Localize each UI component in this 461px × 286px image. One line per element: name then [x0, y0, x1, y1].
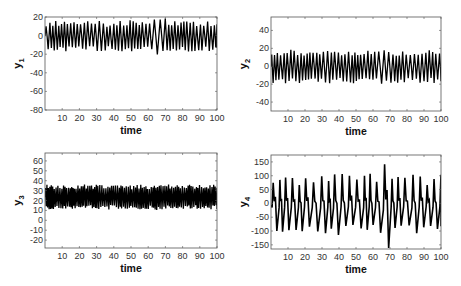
subplot-y2: 10203040506070809010040200-20-40timey2 — [237, 17, 449, 137]
series-line-y4 — [271, 164, 441, 248]
x-tick-label: 100 — [209, 113, 224, 123]
y-tick-label: 20 — [33, 196, 43, 206]
x-tick-label: 10 — [57, 113, 67, 123]
x-tick-label: 20 — [74, 251, 84, 261]
x-tick-label: 100 — [433, 252, 448, 262]
x-tick-label: 30 — [317, 252, 327, 262]
x-tick-label: 50 — [126, 113, 136, 123]
y-tick-label: -20 — [30, 235, 43, 245]
x-tick-label: 40 — [334, 252, 344, 262]
y-tick-label: -40 — [256, 97, 269, 107]
y-tick-label: 50 — [33, 166, 43, 176]
y-tick-label: -150 — [251, 240, 269, 250]
y-tick-label: -40 — [30, 68, 43, 78]
x-tick-label: 20 — [74, 113, 84, 123]
x-tick-label: 80 — [178, 113, 188, 123]
x-tick-label: 30 — [92, 113, 102, 123]
series-line-y2 — [271, 50, 441, 84]
y-tick-label: 20 — [259, 43, 269, 53]
x-tick-label: 30 — [92, 251, 102, 261]
y-axis-label: y4 — [237, 196, 252, 207]
x-tick-label: 80 — [402, 114, 412, 124]
x-tick-label: 50 — [351, 252, 361, 262]
x-tick-label: 60 — [143, 113, 153, 123]
x-tick-label: 20 — [300, 252, 310, 262]
y-tick-label: 10 — [33, 205, 43, 215]
x-tick-label: 90 — [419, 252, 429, 262]
y-tick-label: -10 — [30, 225, 43, 235]
y-axis-label: y3 — [11, 195, 26, 205]
x-axis-label: time — [120, 262, 142, 274]
y-tick-label: 0 — [264, 198, 269, 208]
y-tick-label: 40 — [33, 176, 43, 186]
x-tick-label: 100 — [209, 251, 224, 261]
x-axis-label: time — [120, 124, 142, 136]
y-tick-label: 150 — [254, 157, 269, 167]
x-tick-label: 40 — [109, 113, 119, 123]
x-tick-label: 70 — [385, 252, 395, 262]
x-tick-label: 70 — [385, 114, 395, 124]
y-tick-label: 20 — [33, 12, 43, 22]
x-tick-label: 40 — [334, 114, 344, 124]
y-tick-label: 60 — [33, 156, 43, 166]
y-tick-label: -20 — [30, 49, 43, 59]
x-tick-label: 60 — [368, 252, 378, 262]
y-tick-label: 0 — [264, 61, 269, 71]
y-tick-label: -80 — [30, 105, 43, 115]
y-tick-label: 40 — [259, 25, 269, 35]
x-axis-label: time — [345, 125, 367, 137]
subplot-y3: 1020304050607080901006050403020100-10-20… — [11, 153, 225, 274]
x-tick-label: 10 — [57, 251, 67, 261]
y-tick-label: -20 — [256, 79, 269, 89]
x-tick-label: 80 — [178, 251, 188, 261]
y-tick-label: 0 — [38, 215, 43, 225]
x-tick-label: 50 — [126, 251, 136, 261]
x-tick-label: 70 — [160, 251, 170, 261]
series-line-y1 — [45, 19, 217, 55]
subplot-y1: 102030405060708090100200-20-40-60-80time… — [11, 12, 225, 136]
x-tick-label: 10 — [283, 114, 293, 124]
y-axis-label: y1 — [11, 58, 26, 68]
x-tick-label: 20 — [300, 114, 310, 124]
x-tick-label: 60 — [143, 251, 153, 261]
y-tick-label: 0 — [38, 31, 43, 41]
y-tick-label: 30 — [33, 186, 43, 196]
y-tick-label: -100 — [251, 226, 269, 236]
y-tick-label: 100 — [254, 171, 269, 181]
x-tick-label: 90 — [419, 114, 429, 124]
x-tick-label: 40 — [109, 251, 119, 261]
x-tick-label: 30 — [317, 114, 327, 124]
x-tick-label: 100 — [433, 114, 448, 124]
subplot-y4: 102030405060708090100150100500-50-100-15… — [237, 155, 449, 275]
x-tick-label: 70 — [160, 113, 170, 123]
y-axis-label: y2 — [237, 59, 252, 69]
y-tick-label: -50 — [256, 212, 269, 222]
figure: 102030405060708090100200-20-40-60-80time… — [0, 0, 461, 286]
x-axis-label: time — [345, 263, 367, 275]
x-tick-label: 10 — [283, 252, 293, 262]
x-tick-label: 90 — [195, 113, 205, 123]
y-tick-label: 50 — [259, 185, 269, 195]
x-tick-label: 60 — [368, 114, 378, 124]
y-tick-label: -60 — [30, 86, 43, 96]
x-tick-label: 80 — [402, 252, 412, 262]
x-tick-label: 50 — [351, 114, 361, 124]
x-tick-label: 90 — [195, 251, 205, 261]
series-line-y3 — [45, 185, 217, 210]
